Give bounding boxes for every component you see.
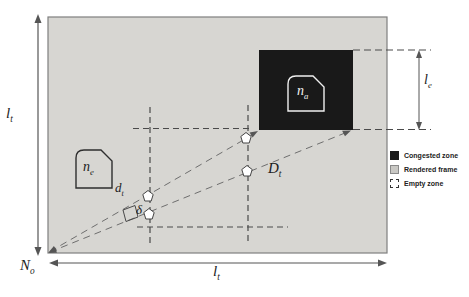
far-distance-sub: t xyxy=(279,169,282,179)
empty-node-main: n xyxy=(83,159,90,174)
legend-label-congested: Congested zone xyxy=(404,152,458,159)
empty-zone-swatch-icon xyxy=(390,179,399,188)
near-distance-label: dt xyxy=(115,181,124,194)
congested-side-label: le xyxy=(424,73,432,87)
far-distance-main: D xyxy=(268,160,279,176)
legend-row-congested: Congested zone xyxy=(390,150,458,160)
figure-canvas: lt lt No ne na dt Dt δ le Congested zone… xyxy=(0,0,469,297)
frame-side-bottom-sub: t xyxy=(217,272,220,282)
congested-node-label: na xyxy=(297,84,308,98)
far-distance-label: Dt xyxy=(268,161,281,176)
diagram-svg xyxy=(0,0,469,297)
congested-side-sub: e xyxy=(428,80,432,90)
empty-node-label: ne xyxy=(83,160,94,174)
congested-height-arrow xyxy=(416,50,422,130)
near-distance-sub: t xyxy=(122,189,124,198)
left-measure-arrow xyxy=(35,14,42,256)
congested-node-main: n xyxy=(297,83,304,98)
legend-label-empty: Empty zone xyxy=(404,180,443,187)
rendered-frame-swatch-icon xyxy=(390,165,399,174)
legend-row-rendered: Rendered frame xyxy=(390,164,458,174)
frame-side-left-label: lt xyxy=(6,106,13,121)
congested-zone-swatch-icon xyxy=(390,151,399,160)
angle-delta-label: δ xyxy=(136,203,142,216)
legend-row-empty: Empty zone xyxy=(390,178,458,188)
origin-node-sub: o xyxy=(30,266,35,276)
frame-side-left-sub: t xyxy=(10,114,13,124)
legend: Congested zone Rendered frame Empty zone xyxy=(390,150,458,188)
origin-node-main: N xyxy=(20,257,30,273)
frame-side-bottom-label: lt xyxy=(213,264,220,279)
congested-node-sub: a xyxy=(304,91,308,101)
empty-node-sub: e xyxy=(90,167,94,177)
origin-node-label: No xyxy=(20,258,35,273)
legend-label-rendered: Rendered frame xyxy=(404,166,457,173)
